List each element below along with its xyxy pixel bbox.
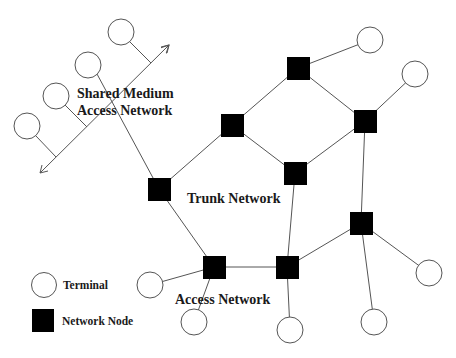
network-node-icon — [350, 212, 373, 235]
network-diagram: Shared Medium Access Network Trunk Netwo… — [0, 0, 456, 358]
terminal-icon — [181, 309, 207, 335]
network-node-icon — [287, 57, 310, 80]
terminal-icon — [416, 260, 442, 286]
network-node-icon — [354, 110, 377, 133]
network-node-icon — [276, 256, 299, 279]
network-node-icon — [284, 162, 307, 185]
terminal-icon — [277, 317, 303, 343]
trunk-network-label: Trunk Network — [187, 191, 281, 206]
terminal-icon — [14, 113, 40, 139]
shared-medium-label-line1: Shared Medium — [77, 86, 174, 101]
network-node-icon — [203, 256, 226, 279]
terminal-icon — [361, 309, 387, 335]
access-network-label: Access Network — [175, 292, 270, 307]
shared-medium-label-line2: Access Network — [77, 103, 172, 118]
network-node-icon — [221, 114, 244, 137]
legend: Terminal Network Node — [32, 273, 134, 333]
terminal-icon — [43, 83, 69, 109]
terminal-icon — [108, 19, 134, 45]
diagram-svg: Shared Medium Access Network Trunk Netwo… — [0, 0, 456, 358]
network-node-icon — [148, 178, 171, 201]
terminal-icon — [402, 61, 428, 87]
terminal-icon — [137, 272, 163, 298]
terminal-icon — [75, 52, 101, 78]
legend-terminal-label: Terminal — [63, 279, 108, 291]
terminal-icon — [357, 27, 383, 53]
legend-network-node-icon — [32, 309, 54, 332]
legend-network-node-label: Network Node — [62, 315, 133, 327]
legend-terminal-icon — [32, 273, 57, 298]
